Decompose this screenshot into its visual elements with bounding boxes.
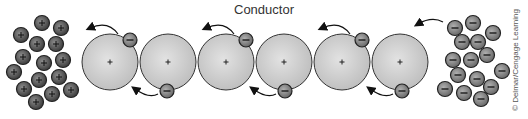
free-electron (160, 84, 174, 98)
positive-charge (56, 53, 71, 68)
negative-charge (464, 53, 479, 68)
negative-charge (457, 86, 472, 101)
negative-charge (471, 35, 486, 50)
positive-charge (45, 87, 60, 102)
negative-charge (484, 80, 499, 95)
positive-charge (35, 16, 50, 31)
negative-charge (470, 72, 485, 87)
flow-arrow (90, 25, 118, 34)
negative-charge (480, 48, 495, 63)
negative-charge (455, 35, 470, 50)
free-electron (355, 33, 369, 47)
negative-charge (466, 16, 481, 31)
flow-arrow (418, 19, 443, 24)
positive-charge (49, 37, 64, 52)
free-electron (239, 33, 253, 47)
negative-charge-cluster (438, 16, 510, 107)
negative-charge (451, 68, 466, 83)
positive-charge (14, 28, 29, 43)
negative-charge (486, 26, 501, 41)
atom (140, 34, 196, 90)
negative-charge (446, 53, 461, 68)
flow-arrow (206, 25, 234, 34)
positive-charge (30, 37, 45, 52)
positive-charge (7, 65, 22, 80)
flow-arrow (253, 89, 276, 96)
positive-charge-cluster (7, 16, 79, 110)
negative-charge (448, 21, 463, 36)
positive-charge (37, 56, 52, 71)
atom (256, 34, 312, 90)
positive-charge (17, 82, 32, 97)
positive-charge (54, 21, 69, 36)
flow-arrow (370, 89, 393, 96)
atom (372, 34, 428, 90)
positive-charge (16, 50, 31, 65)
positive-charge (32, 73, 47, 88)
free-electron (395, 84, 409, 98)
free-electron (278, 84, 292, 98)
negative-charge (495, 64, 510, 79)
negative-charge (474, 92, 489, 107)
flow-arrow (135, 89, 158, 96)
copyright-credit: © Delmar/Cengage Learning (511, 9, 520, 111)
negative-charge (438, 82, 453, 97)
flow-arrow (322, 25, 350, 34)
conductor-diagram: Conductor © Delmar/Cengage Learning (0, 0, 528, 119)
free-electron (123, 33, 137, 47)
positive-charge (52, 70, 67, 85)
positive-charge (64, 83, 79, 98)
diagram-canvas (0, 0, 528, 119)
positive-charge (29, 95, 44, 110)
